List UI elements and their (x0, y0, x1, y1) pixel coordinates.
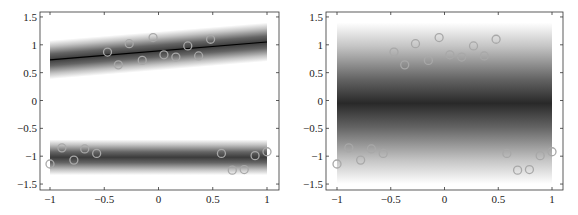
x-tick-label: 1 (264, 193, 270, 205)
y-tick-label: 1.5 (309, 11, 323, 23)
right-plot-canvas: −1−0.500.51−1.5−1−0.500.511.5 (289, 0, 578, 215)
density-band (50, 139, 267, 175)
x-tick-label: −0.5 (381, 193, 401, 205)
y-tick-label: −1 (311, 150, 323, 162)
y-tick-label: −0.5 (17, 122, 37, 134)
y-tick-label: 0.5 (23, 67, 37, 79)
y-tick-label: 0.5 (309, 67, 323, 79)
right-plot: −1−0.500.51−1.5−1−0.500.511.5 (289, 0, 578, 215)
x-tick-label: 0.5 (206, 193, 220, 205)
y-tick-label: −1.5 (17, 178, 37, 190)
y-tick-label: 1 (318, 39, 324, 51)
x-tick-label: 1 (549, 193, 555, 205)
y-tick-label: −0.5 (303, 122, 323, 134)
y-tick-label: −1 (25, 150, 37, 162)
x-tick-label: −1 (331, 193, 343, 205)
y-tick-label: 0 (32, 95, 38, 107)
left-plot-canvas: −1−0.500.51−1.5−1−0.500.511.5 (0, 0, 289, 215)
density-band (337, 23, 552, 185)
y-tick-label: −1.5 (303, 178, 323, 190)
left-plot: −1−0.500.51−1.5−1−0.500.511.5 (0, 0, 289, 215)
y-tick-label: 0 (318, 95, 324, 107)
x-tick-label: 0 (156, 193, 162, 205)
x-tick-label: 0 (442, 193, 448, 205)
x-tick-label: −1 (44, 193, 56, 205)
y-tick-label: 1.5 (23, 11, 37, 23)
y-tick-label: 1 (32, 39, 38, 51)
x-tick-label: −0.5 (94, 193, 114, 205)
x-tick-label: 0.5 (491, 193, 505, 205)
